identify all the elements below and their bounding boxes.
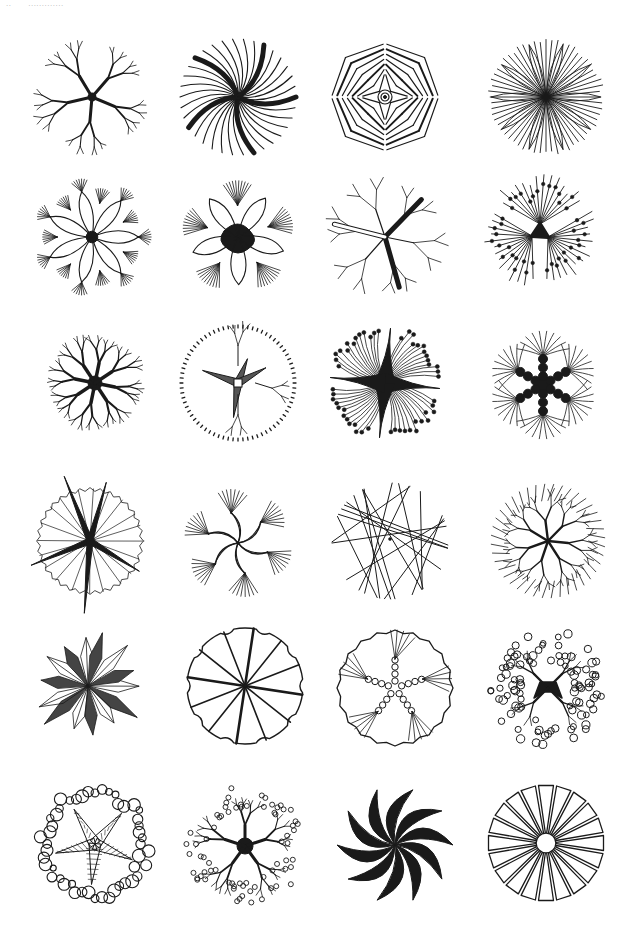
tree-symbol-7-open-branches-hatched-trunk — [319, 171, 451, 303]
tree-plan-icon — [172, 317, 304, 449]
tree-plan-icon — [324, 475, 456, 607]
tree-symbol-12-beaded-arms-arc-fringe — [477, 319, 609, 451]
tree-symbol-23-pinwheel-crescents — [329, 779, 461, 911]
tree-symbol-17-spiky-starburst — [24, 622, 152, 750]
tree-symbol-8-radial-lines-dots — [474, 166, 606, 298]
tree-symbol-1-branching-trunk-hatched — [26, 31, 158, 163]
tree-symbol-11-solid-cross-dotted-fringe — [319, 317, 451, 449]
tree-symbol-9-dendritic-solid — [29, 317, 161, 449]
tree-symbol-14-curved-branches-fringe — [174, 479, 302, 607]
tree-plan-icon — [319, 31, 451, 163]
tree-symbol-24-wedge-rays-hub — [480, 777, 612, 909]
tree-plan-icon — [24, 475, 156, 607]
tree-plan-icon — [319, 171, 451, 303]
tree-symbol-19-scalloped-circle-coils — [329, 622, 461, 754]
tree-symbol-4-dense-radial-leaves — [480, 31, 612, 163]
tree-symbol-3-chevron-lines-center-rings — [319, 31, 451, 163]
tree-symbol-13-serrated-edge-starburst — [24, 475, 156, 607]
tree-plan-icon — [480, 777, 612, 909]
tree-symbol-16-irregular-branches-dense — [482, 475, 614, 607]
tree-plan-icon — [329, 779, 461, 911]
tree-symbol-21-bubble-edge-hatched-trunk — [29, 778, 161, 910]
tree-plan-icon — [174, 479, 302, 607]
tree-symbol-6-petal-lobes-solid-center — [172, 171, 304, 303]
tree-symbol-22-bubble-twigs-solid-trunk — [177, 778, 313, 914]
tree-symbol-5-petal-lobes-fan-edge — [26, 171, 158, 303]
tree-symbol-20-bubble-foliage-solid-trunk — [482, 622, 614, 754]
tree-plan-icon — [24, 622, 152, 750]
tree-plan-icon — [177, 778, 313, 914]
tree-symbol-plate — [0, 0, 637, 940]
tree-plan-icon — [179, 620, 311, 752]
tree-symbol-10-dashed-edge-star-trunk — [172, 317, 304, 449]
tree-symbol-2-sweeping-lines-bold-strokes — [172, 31, 304, 163]
tree-plan-icon — [482, 475, 614, 607]
tree-plan-icon — [329, 622, 461, 754]
tree-plan-icon — [26, 171, 158, 303]
tree-plan-icon — [474, 166, 606, 298]
tree-plan-icon — [29, 778, 161, 910]
tree-plan-icon — [26, 31, 158, 163]
tree-symbol-15-straight-line-web — [324, 475, 456, 607]
tree-plan-icon — [29, 317, 161, 449]
tree-plan-icon — [319, 317, 451, 449]
tree-plan-icon — [477, 319, 609, 451]
tree-plan-icon — [480, 31, 612, 163]
tree-symbol-18-notched-circle-spokes — [179, 620, 311, 752]
tree-plan-icon — [172, 31, 304, 163]
tree-plan-icon — [482, 622, 614, 754]
tree-plan-icon — [172, 171, 304, 303]
